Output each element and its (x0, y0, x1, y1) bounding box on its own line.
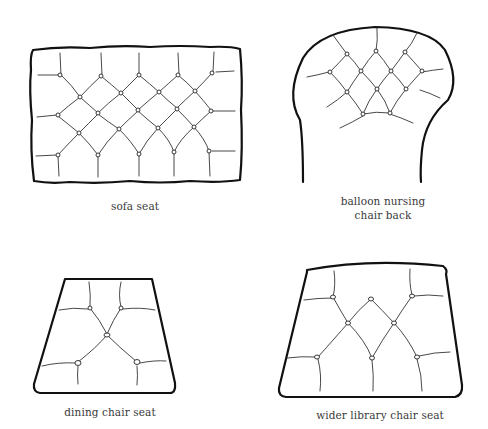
sofa-seat-illustration (30, 46, 242, 183)
balloon-chair-back-illustration (293, 27, 453, 182)
library-chair-seat-label: wider library chair seat (300, 408, 460, 422)
dining-chair-seat-illustration (34, 279, 175, 393)
dining-chair-seat-label: dining chair seat (50, 405, 170, 419)
sofa-seat-label: sofa seat (90, 199, 180, 213)
balloon-chair-back-label-line1: balloon nursing (318, 194, 448, 208)
balloon-chair-back-label-line2: chair back (318, 208, 448, 222)
upholstery-buttoning-diagram: sofa seat balloon nursing chair back din… (0, 0, 488, 429)
library-chair-seat-illustration (279, 263, 462, 397)
